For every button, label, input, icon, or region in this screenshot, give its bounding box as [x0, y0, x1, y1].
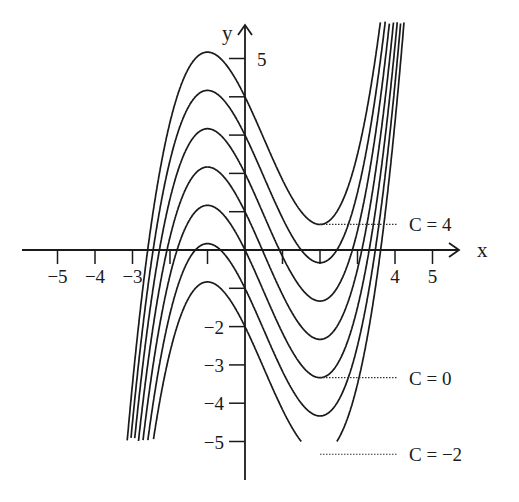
curve-annotations: C = 4C = 0C = −2 — [409, 214, 462, 465]
curve-annotation: C = 4 — [409, 214, 452, 235]
y-tick-label: −2 — [204, 317, 224, 338]
x-tick-label: −3 — [122, 266, 142, 287]
curve-c3 — [131, 22, 385, 438]
curve-c-2 — [154, 23, 405, 442]
x-tick-label: −5 — [47, 266, 67, 287]
y-axis-label: y — [222, 21, 233, 45]
y-tick-label: −3 — [204, 355, 224, 376]
x-tick-label: −4 — [85, 266, 106, 287]
curve-c1 — [139, 23, 394, 442]
curve-annotation: C = −2 — [409, 444, 462, 465]
y-tick-label: −4 — [204, 393, 225, 414]
x-axis-label: x — [477, 238, 488, 262]
y-tick-label: 5 — [257, 49, 267, 70]
curve-c2 — [135, 24, 390, 439]
x-tick-label: 4 — [390, 266, 400, 287]
curve-family — [127, 22, 404, 442]
solution-curves-chart: −5−4−3455−2−3−4−5 x y C = 4C = 0C = −2 — [0, 0, 519, 502]
x-tick-label: 5 — [428, 266, 438, 287]
curve-annotation: C = 0 — [409, 368, 451, 389]
y-tick-label: −5 — [204, 432, 224, 453]
